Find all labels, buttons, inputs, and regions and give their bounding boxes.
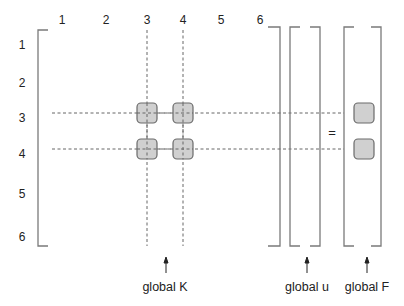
row-label-5: 5 [19, 188, 26, 200]
arrows [164, 257, 369, 273]
matrix-K-entries [137, 103, 193, 159]
equals-sign: = [328, 127, 336, 139]
row-label-6: 6 [19, 231, 26, 243]
row-label-4: 4 [19, 148, 26, 160]
dashed-guides [52, 30, 344, 246]
matrix-K-brackets [38, 27, 280, 246]
diagram-canvas [0, 0, 404, 306]
column-label-2: 2 [103, 14, 110, 26]
column-label-3: 3 [144, 14, 151, 26]
column-label-5: 5 [218, 14, 225, 26]
caption-global-u: global u [285, 280, 329, 294]
vector-u-brackets [290, 27, 320, 246]
vector-F-entries [354, 103, 374, 159]
row-label-1: 1 [19, 39, 26, 51]
column-label-6: 6 [257, 14, 264, 26]
entry-f3 [354, 103, 374, 123]
column-label-1: 1 [59, 14, 66, 26]
row-label-3: 3 [19, 112, 26, 124]
caption-global-K: global K [142, 280, 187, 294]
column-label-4: 4 [180, 14, 187, 26]
entry-f4 [354, 139, 374, 159]
row-label-2: 2 [19, 77, 26, 89]
vector-F-brackets [344, 27, 381, 246]
caption-global-F: global F [345, 280, 389, 294]
